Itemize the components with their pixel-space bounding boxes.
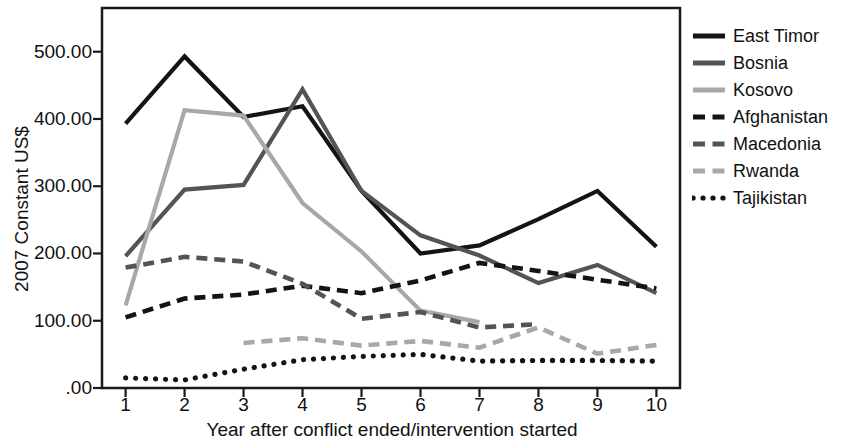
x-axis-tick-label: 4 <box>297 394 308 416</box>
x-axis-tick-label: 6 <box>415 394 426 416</box>
legend-swatch-dashed-line-icon <box>692 110 726 124</box>
legend-label: Afghanistan <box>733 108 828 126</box>
legend-item-tajikistan: Tajikistan <box>692 184 842 211</box>
series-line-bosnia <box>126 89 657 293</box>
legend-item-rwanda: Rwanda <box>692 157 842 184</box>
plot-frame <box>102 8 680 388</box>
legend-label: Macedonia <box>733 135 821 153</box>
legend-swatch-solid-line-icon <box>692 56 726 70</box>
chart-legend: East TimorBosniaKosovoAfghanistanMacedon… <box>692 22 842 211</box>
series-line-macedonia <box>126 257 539 328</box>
legend-item-afghanistan: Afghanistan <box>692 103 842 130</box>
legend-swatch-dashed-line-icon <box>692 137 726 151</box>
legend-item-bosnia: Bosnia <box>692 49 842 76</box>
x-axis-title: Year after conflict ended/intervention s… <box>102 419 682 441</box>
x-axis-tick-label: 2 <box>179 394 190 416</box>
x-axis-tick-label: 3 <box>238 394 249 416</box>
series-line-rwanda <box>244 327 657 353</box>
legend-label: Tajikistan <box>733 189 807 207</box>
legend-item-macedonia: Macedonia <box>692 130 842 157</box>
legend-item-kosovo: Kosovo <box>692 76 842 103</box>
legend-label: Bosnia <box>733 54 788 72</box>
x-axis-tick-label: 10 <box>646 394 667 416</box>
x-axis-tick-label: 5 <box>356 394 367 416</box>
legend-label: Kosovo <box>733 81 793 99</box>
x-axis-tick-label: 1 <box>120 394 131 416</box>
legend-swatch-solid-line-icon <box>692 29 726 43</box>
legend-item-east-timor: East Timor <box>692 22 842 49</box>
series-line-kosovo <box>126 110 480 322</box>
x-axis-tick-label: 9 <box>592 394 603 416</box>
legend-label: Rwanda <box>733 162 799 180</box>
legend-swatch-dotted-line-icon <box>692 191 726 205</box>
x-axis-tick-label: 7 <box>474 394 485 416</box>
x-axis-tick-label: 8 <box>533 394 544 416</box>
x-axis-tick-labels: 12345678910 <box>0 394 842 420</box>
legend-swatch-dashed-line-icon <box>692 164 726 178</box>
series-line-tajikistan <box>126 354 657 380</box>
legend-label: East Timor <box>733 27 819 45</box>
legend-swatch-solid-line-icon <box>692 83 726 97</box>
series-line-east-timor <box>126 56 657 253</box>
chart-figure: 2007 Constant US$ .00100.00200.00300.004… <box>0 0 842 444</box>
